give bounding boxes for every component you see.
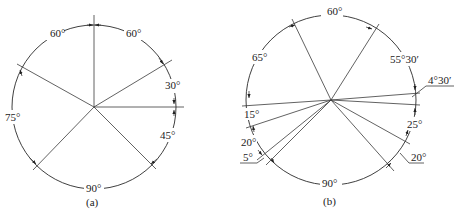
caption-b: (b): [323, 195, 336, 208]
radial-line-minus135: [33, 107, 94, 170]
figure-a: 60° 60° 30° 45° 90° 75° (a): [3, 15, 184, 209]
figure-b: 60° 55°30′ 4°30′ 25° 20° 90° 5° 20° 15° …: [239, 5, 454, 208]
radial-line: [331, 100, 420, 105]
radial-line: [257, 100, 331, 160]
radial-line: [331, 93, 420, 100]
radial-line-150: [17, 64, 94, 107]
angle-label: 15°: [244, 108, 259, 120]
radial-line: [266, 100, 331, 165]
angle-label: 25°: [407, 118, 422, 130]
angle-label: 20°: [241, 136, 256, 148]
radial-line: [331, 100, 394, 171]
leader-20: [400, 153, 409, 163]
angle-label: 60°: [50, 27, 65, 39]
angle-label: 60°: [327, 5, 342, 17]
angle-label: 55°30′: [390, 53, 419, 65]
angle-label: 90°: [322, 177, 337, 189]
angle-label: 4°30′: [428, 74, 451, 86]
angle-label: 90°: [86, 182, 101, 194]
caption-a: (a): [86, 196, 99, 209]
angle-label: 75°: [5, 111, 20, 123]
angle-division-diagrams: 60° 60° 30° 45° 90° 75° (a): [0, 0, 455, 211]
angle-label: 60°: [126, 27, 141, 39]
angle-label: 45°: [160, 129, 175, 141]
leader-4-30: [412, 86, 426, 97]
radial-line-30: [94, 60, 172, 107]
angle-label: 30°: [165, 79, 180, 91]
radial-line: [292, 19, 331, 100]
angle-label: 65°: [252, 51, 267, 63]
radial-line: [331, 100, 410, 144]
radial-line: [331, 24, 379, 100]
radial-line: [242, 100, 331, 106]
angle-label: 5°: [243, 151, 253, 163]
angle-label: 20°: [411, 151, 426, 163]
radial-line-minus45: [94, 107, 156, 169]
